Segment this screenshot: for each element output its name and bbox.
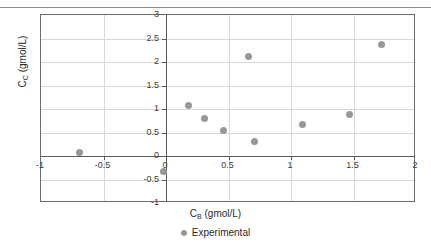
data-point-marker [346,111,353,118]
data-point-marker [201,115,208,122]
y-axis-tick [162,133,166,134]
circle-marker-icon [181,230,187,236]
x-axis-tick-label: 0.5 [208,160,248,170]
y-axis-tick [162,62,166,63]
x-axis-tick-label: 2 [395,160,431,170]
plot-area [40,14,415,202]
x-axis-tick-label: 0 [145,160,185,170]
gridline-vertical [354,15,355,201]
gridline-vertical [229,15,230,201]
gridline-horizontal [41,62,414,63]
y-axis-tick-label: 0.5 [109,127,159,137]
y-axis-tick-label: -0.5 [109,174,159,184]
y-axis-label-units: (gmol/L) [17,36,28,75]
x-axis-tick-label: -0.5 [83,160,123,170]
y-axis-tick [162,39,166,40]
x-axis-tick-label: 1 [270,160,310,170]
data-point-marker [76,149,83,156]
y-axis-tick-label: -1 [109,197,159,207]
y-axis-tick-label: 1.5 [109,80,159,90]
x-axis-label: CB (gmol/L) [0,208,431,219]
chart-legend: Experimental [0,227,431,238]
legend-entry-label: Experimental [192,227,250,238]
y-axis-tick-label: 3 [109,9,159,19]
data-point-marker [299,121,306,128]
y-axis-tick-label: 2.5 [109,33,159,43]
x-axis-tick-label: -1 [20,160,60,170]
x-axis-label-units: (gmol/L) [202,208,241,219]
scatter-chart-figure: CC (gmol/L) CB (gmol/L) Experimental -1-… [0,0,431,252]
data-point-marker [245,53,252,60]
y-axis-tick-label: 2 [109,56,159,66]
gridline-horizontal [41,133,414,134]
y-axis-tick [162,109,166,110]
x-axis-label-subscript: B [197,213,202,220]
data-point-marker [185,102,192,109]
y-axis-tick [162,86,166,87]
gridline-vertical [104,15,105,201]
y-axis-tick-label: 0 [109,150,159,160]
gridline-vertical [291,15,292,201]
data-point-marker [378,41,385,48]
y-axis-label: CC (gmol/L) [17,7,28,117]
gridline-horizontal [41,39,414,40]
data-point-marker [251,138,258,145]
y-axis-label-base: C [17,80,28,87]
y-axis-tick-label: 1 [109,103,159,113]
gridline-horizontal [41,180,414,181]
gridline-horizontal [41,86,414,87]
gridline-horizontal [41,109,414,110]
x-axis-label-base: C [190,208,197,219]
x-axis-tick-label: 1.5 [333,160,373,170]
y-axis-label-subscript: C [22,75,29,80]
x-axis-line [41,156,414,157]
y-axis-tick [162,180,166,181]
